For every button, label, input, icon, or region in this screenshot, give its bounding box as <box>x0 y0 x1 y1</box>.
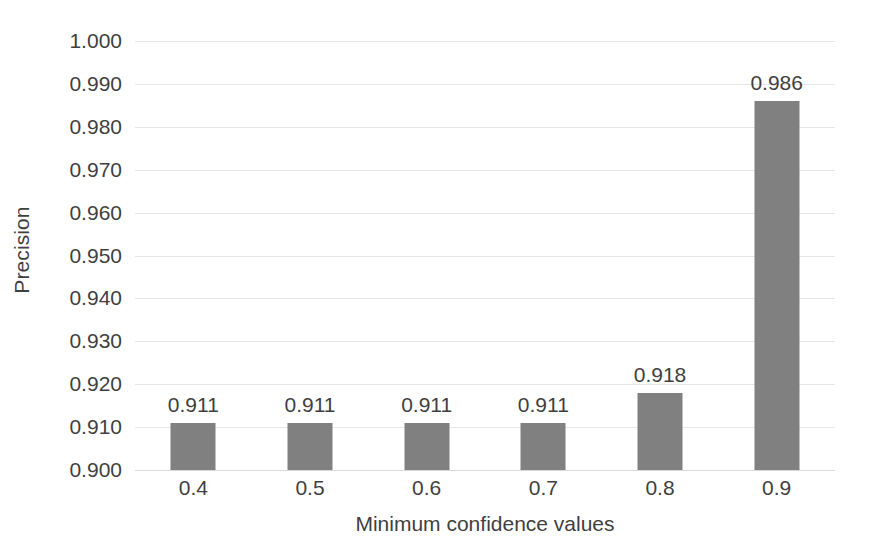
x-tick-label: 0.9 <box>762 476 791 500</box>
y-tick-label: 0.930 <box>69 329 122 353</box>
x-tick-label: 0.6 <box>412 476 441 500</box>
bar-value-label: 0.918 <box>634 363 687 387</box>
bar[interactable] <box>637 393 682 470</box>
y-tick-label: 0.960 <box>69 201 122 225</box>
bars-layer: 0.9110.9110.9110.9110.9180.986 <box>135 41 835 470</box>
bar-value-label: 0.911 <box>284 393 335 417</box>
bar-value-label: 0.911 <box>401 393 452 417</box>
bar[interactable] <box>521 423 566 470</box>
y-tick-label: 0.920 <box>69 372 122 396</box>
bar-value-label: 0.911 <box>518 393 569 417</box>
bar-slot: 0.911 <box>485 41 602 470</box>
y-tick-label: 0.940 <box>69 286 122 310</box>
x-tick-label: 0.4 <box>179 476 208 500</box>
y-tick-label: 0.900 <box>69 458 122 482</box>
bar-slot: 0.986 <box>718 41 835 470</box>
x-tick-label: 0.7 <box>529 476 558 500</box>
y-tick-label: 0.910 <box>69 415 122 439</box>
y-tick-label: 0.950 <box>69 244 122 268</box>
bar-slot: 0.911 <box>252 41 369 470</box>
y-tick-label: 0.980 <box>69 115 122 139</box>
x-axis-tick-labels: 0.40.50.60.70.80.9 <box>135 476 835 506</box>
precision-bar-chart: Precision 1.0000.9900.9800.9700.9600.950… <box>0 0 879 559</box>
bar-value-label: 0.911 <box>168 393 219 417</box>
bar-slot: 0.911 <box>368 41 485 470</box>
y-axis-tick-labels: 1.0000.9900.9800.9700.9600.9500.9400.930… <box>44 41 130 470</box>
x-tick-label: 0.5 <box>295 476 324 500</box>
bar-slot: 0.911 <box>135 41 252 470</box>
plot-area: 0.9110.9110.9110.9110.9180.986 <box>135 41 835 470</box>
bar[interactable] <box>171 423 216 470</box>
y-tick-label: 1.000 <box>69 29 122 53</box>
y-tick-label: 0.970 <box>69 158 122 182</box>
x-axis-title: Minimum confidence values <box>135 512 835 536</box>
bar[interactable] <box>754 101 799 470</box>
y-axis-title: Precision <box>0 0 44 500</box>
bar-slot: 0.918 <box>602 41 719 470</box>
x-tick-label: 0.8 <box>645 476 674 500</box>
bar[interactable] <box>287 423 332 470</box>
y-tick-label: 0.990 <box>69 72 122 96</box>
y-axis-title-text: Precision <box>10 206 34 293</box>
bar-value-label: 0.986 <box>750 71 803 95</box>
bar[interactable] <box>404 423 449 470</box>
gridline <box>135 470 835 471</box>
